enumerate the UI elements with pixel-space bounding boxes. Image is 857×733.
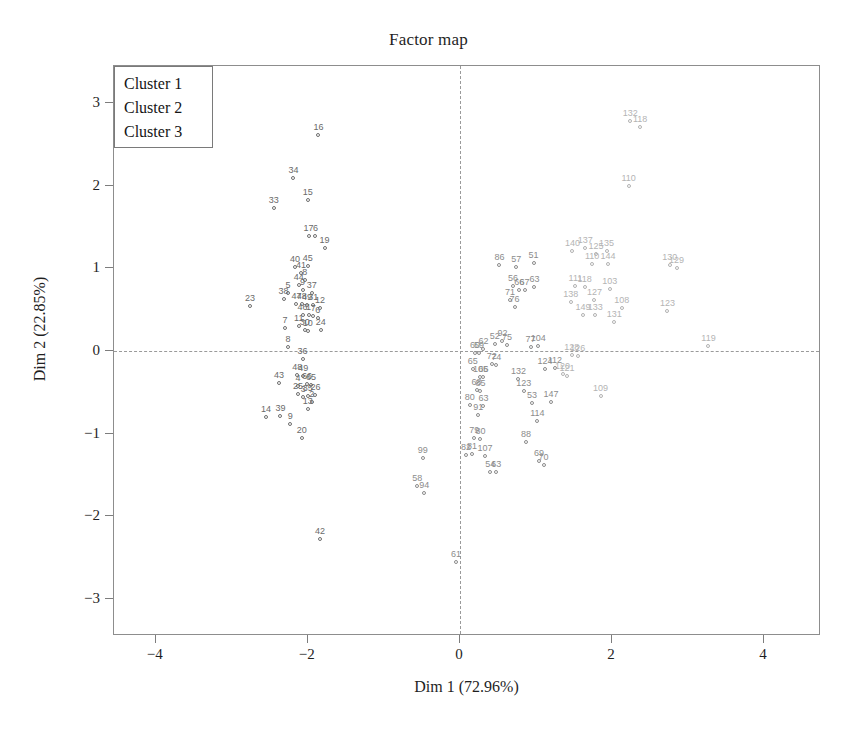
scatter-point	[300, 436, 304, 440]
scatter-point	[470, 452, 474, 456]
point-label: 8	[302, 268, 307, 277]
point-label: 12	[315, 296, 325, 305]
plot-area: 1634153317619404541844953738234748493112…	[113, 65, 820, 635]
point-label: 63	[478, 394, 488, 403]
y-axis-tick	[105, 267, 113, 268]
scatter-point	[291, 176, 295, 180]
scatter-point	[307, 313, 311, 317]
scatter-point	[318, 306, 322, 310]
y-axis-tick	[105, 433, 113, 434]
scatter-point	[511, 284, 515, 288]
point-label: 23	[245, 294, 255, 303]
scatter-point	[481, 375, 485, 379]
legend-entry-cluster-2: Cluster 2	[124, 96, 205, 120]
point-label: 3	[301, 385, 306, 394]
point-label: 112	[548, 356, 562, 365]
x-axis-tick-label: −2	[299, 646, 315, 663]
point-label: 118	[577, 275, 591, 284]
scatter-point	[483, 454, 487, 458]
scatter-point	[316, 133, 320, 137]
scatter-point	[301, 395, 305, 399]
scatter-point	[620, 306, 624, 310]
point-label: 144	[601, 252, 616, 261]
scatter-point	[301, 288, 305, 292]
scatter-point	[316, 316, 320, 320]
legend: Cluster 1 Cluster 2 Cluster 3	[114, 66, 213, 148]
point-label: 45	[303, 254, 313, 263]
scatter-point	[565, 374, 569, 378]
scatter-point	[282, 297, 286, 301]
scatter-point	[490, 362, 494, 366]
point-label: 119	[701, 334, 715, 343]
scatter-point	[311, 303, 315, 307]
point-label: 39	[275, 404, 285, 413]
point-label: 125	[588, 242, 603, 251]
scatter-point	[581, 313, 585, 317]
scatter-point	[542, 463, 546, 467]
scatter-point	[561, 372, 565, 376]
scatter-point	[296, 384, 300, 388]
scatter-point	[301, 313, 305, 317]
y-axis-tick-label: −1	[60, 424, 100, 441]
point-label: 99	[418, 446, 428, 455]
scatter-point	[293, 265, 297, 269]
x-axis-tick	[155, 635, 156, 643]
scatter-point	[488, 470, 492, 474]
point-label: 40	[290, 255, 300, 264]
point-label: 132	[511, 367, 526, 376]
point-label: 42	[315, 527, 325, 536]
scatter-point	[471, 367, 475, 371]
y-axis-tick	[105, 598, 113, 599]
scatter-point	[297, 324, 301, 328]
scatter-point	[638, 125, 642, 129]
zero-reference-line-horizontal	[114, 351, 819, 352]
point-label: 10	[303, 319, 313, 328]
scatter-point	[468, 403, 472, 407]
scatter-point	[319, 328, 323, 332]
scatter-point	[706, 344, 710, 348]
y-axis-tick	[105, 350, 113, 351]
scatter-point	[306, 394, 310, 398]
scatter-point	[313, 393, 317, 397]
point-label: 53	[527, 391, 537, 400]
point-label: 111	[569, 274, 583, 283]
point-label: 16	[313, 123, 323, 132]
scatter-point	[306, 329, 310, 333]
point-label: 66	[478, 365, 488, 374]
point-label: 19	[320, 236, 330, 245]
point-label: 114	[530, 409, 544, 418]
point-label: 94	[419, 481, 429, 490]
scatter-point	[277, 381, 281, 385]
legend-entry-cluster-1: Cluster 1	[124, 72, 205, 96]
zero-reference-line-vertical	[460, 66, 461, 634]
scatter-point	[307, 234, 311, 238]
point-label: 63	[529, 275, 539, 284]
point-label: 138	[563, 290, 578, 299]
scatter-point	[606, 262, 610, 266]
scatter-point	[272, 206, 276, 210]
scatter-point	[612, 320, 616, 324]
point-label: 66	[514, 278, 524, 287]
point-label: 65	[306, 373, 316, 382]
point-label: 135	[599, 239, 614, 248]
scatter-point	[306, 264, 310, 268]
scatter-point	[421, 456, 425, 460]
point-label: 58	[412, 474, 422, 483]
scatter-point	[278, 414, 282, 418]
y-axis-tick-label: −2	[60, 507, 100, 524]
point-label: 124	[538, 357, 553, 366]
y-axis-tick	[105, 515, 113, 516]
scatter-point	[522, 389, 526, 393]
scatter-point	[605, 249, 609, 253]
point-label: 107	[477, 444, 492, 453]
x-axis-label: Dim 1 (72.96%)	[113, 678, 820, 696]
scatter-point	[508, 298, 512, 302]
scatter-point	[264, 415, 268, 419]
point-label: 133	[588, 303, 603, 312]
scatter-point	[454, 560, 458, 564]
x-axis-tick-label: 2	[607, 646, 615, 663]
scatter-point	[493, 342, 497, 346]
scatter-point	[668, 263, 672, 267]
scatter-point	[516, 377, 520, 381]
scatter-point	[675, 266, 679, 270]
